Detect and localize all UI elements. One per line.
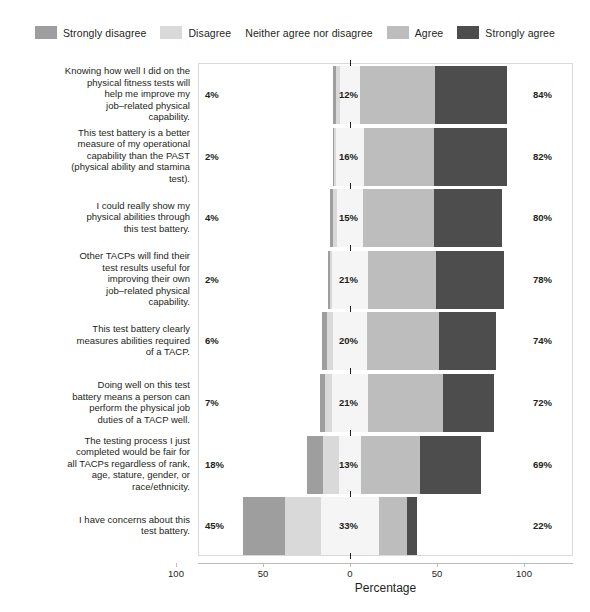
segment-disagree: [323, 436, 339, 494]
chart-legend: Strongly disagreeDisagreeNeither agree n…: [0, 26, 590, 39]
category-label-line: duties of a TACP well.: [15, 414, 190, 426]
legend-swatch-icon: [387, 26, 409, 39]
x-axis-tick: [176, 563, 177, 567]
category-label-line: capability than the PAST: [15, 150, 190, 162]
segment-strongly-agree: [434, 128, 507, 186]
segment-strongly-agree: [435, 66, 506, 124]
legend-label: Strongly agree: [485, 27, 555, 39]
zero-reference-tick: [350, 60, 351, 66]
category-label-line: This test battery is a better: [15, 127, 190, 139]
category-label-line: completed would be fair for: [15, 446, 190, 458]
x-axis-tick: [524, 563, 525, 567]
category-label: The testing process I justcompleted woul…: [15, 435, 190, 493]
x-axis-tick-label: 100: [168, 568, 184, 579]
right-total-percent: 74%: [533, 335, 552, 346]
segment-strongly-agree: [436, 251, 504, 309]
left-total-percent: 45%: [205, 520, 224, 531]
neutral-percent-label: 21%: [339, 274, 358, 285]
zero-reference-tick: [350, 553, 351, 559]
segment-disagree: [285, 497, 322, 555]
x-axis-line: [198, 563, 573, 564]
chart-page: Strongly disagreeDisagreeNeither agree n…: [0, 0, 590, 612]
category-label-line: battery means a person can: [15, 391, 190, 403]
category-label-line: test).: [15, 173, 190, 185]
category-label-line: physical fitness tests will: [15, 77, 190, 89]
legend-swatch-icon: [35, 26, 57, 39]
left-total-percent: 6%: [205, 335, 219, 346]
zero-reference-tick: [350, 368, 351, 374]
zero-reference-tick: [350, 183, 351, 189]
category-label-line: Doing well on this test: [15, 379, 190, 391]
category-label-line: race/ethnicity.: [15, 481, 190, 493]
category-label-line: (physical ability and stamina: [15, 161, 190, 173]
right-total-percent: 69%: [533, 459, 552, 470]
category-label-line: this test battery.: [15, 223, 190, 235]
category-label-line: test results useful for: [15, 262, 190, 274]
category-label: This test battery clearlymeasures abilit…: [15, 323, 190, 358]
right-total-percent: 22%: [533, 520, 552, 531]
left-total-percent: 7%: [205, 397, 219, 408]
segment-agree: [361, 436, 420, 494]
left-total-percent: 4%: [205, 212, 219, 223]
category-label-line: measures abilities required: [15, 335, 190, 347]
category-label: Knowing how well I did on thephysical fi…: [15, 65, 190, 123]
category-label: I have concerns about thistest battery.: [15, 514, 190, 537]
neutral-percent-label: 20%: [339, 335, 358, 346]
neutral-percent-label: 33%: [339, 520, 358, 531]
category-label: Doing well on this testbattery means a p…: [15, 379, 190, 425]
legend-item-2: Neither agree nor disagree: [245, 26, 373, 39]
category-label-line: perform the physical job: [15, 402, 190, 414]
category-label-line: I have concerns about this: [15, 514, 190, 526]
category-label-line: help me improve my: [15, 88, 190, 100]
neutral-percent-label: 15%: [339, 212, 358, 223]
neutral-percent-label: 16%: [339, 151, 358, 162]
legend-label: Disagree: [188, 27, 231, 39]
segment-disagree: [325, 374, 332, 432]
segment-strongly-disagree: [243, 497, 285, 555]
category-label-line: all TACPs regardless of rank,: [15, 458, 190, 470]
category-label-line: measure of my operational: [15, 138, 190, 150]
zero-reference-tick: [350, 491, 351, 497]
legend-swatch-icon: [160, 26, 182, 39]
segment-strongly-agree: [420, 436, 481, 494]
zero-reference-tick: [350, 122, 351, 128]
category-label-line: capability.: [15, 296, 190, 308]
segment-strongly-agree: [407, 497, 417, 555]
x-axis-tick-label: 50: [432, 568, 443, 579]
category-label-line: job–related physical: [15, 100, 190, 112]
x-axis-tick: [350, 563, 351, 567]
left-total-percent: 18%: [205, 459, 224, 470]
category-label: I could really show myphysical abilities…: [15, 200, 190, 235]
segment-agree: [368, 251, 436, 309]
right-total-percent: 78%: [533, 274, 552, 285]
right-total-percent: 82%: [533, 151, 552, 162]
segment-agree: [379, 497, 407, 555]
category-label-line: Other TACPs will find their: [15, 250, 190, 262]
legend-label: Strongly disagree: [63, 27, 146, 39]
segment-strongly-disagree: [307, 436, 323, 494]
x-axis-tick-label: 100: [516, 568, 532, 579]
left-total-percent: 4%: [205, 89, 219, 100]
category-label-line: The testing process I just: [15, 435, 190, 447]
category-label-line: of a TACP.: [15, 346, 190, 358]
legend-item-1: Disagree: [160, 26, 231, 39]
category-label-line: test battery.: [15, 525, 190, 537]
x-axis-tick: [437, 563, 438, 567]
category-label-line: job–related physical: [15, 285, 190, 297]
category-label-line: Knowing how well I did on the: [15, 65, 190, 77]
x-axis-tick-label: 50: [258, 568, 269, 579]
left-total-percent: 2%: [205, 274, 219, 285]
category-label-line: This test battery clearly: [15, 323, 190, 335]
category-label-line: capability.: [15, 111, 190, 123]
x-axis-tick: [263, 563, 264, 567]
neutral-percent-label: 13%: [339, 459, 358, 470]
left-total-percent: 2%: [205, 151, 219, 162]
legend-item-0: Strongly disagree: [35, 26, 146, 39]
category-label-line: physical abilities through: [15, 211, 190, 223]
category-label-line: I could really show my: [15, 200, 190, 212]
neutral-percent-label: 21%: [339, 397, 358, 408]
x-axis-tick-label: 0: [347, 568, 352, 579]
right-total-percent: 84%: [533, 89, 552, 100]
zero-reference-tick: [350, 245, 351, 251]
neutral-percent-label: 12%: [339, 89, 358, 100]
